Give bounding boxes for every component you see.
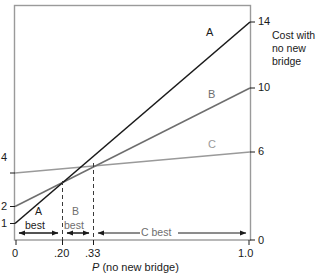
region-label-b-line2: best	[64, 219, 84, 231]
y-label-right-6: 6	[258, 145, 264, 157]
y-label-left-1: 1	[1, 217, 7, 229]
y-label-right-0: 0	[258, 234, 264, 246]
right-annotation-line1: Cost with	[272, 29, 315, 42]
x-label-020: .20	[54, 247, 69, 259]
region-label-a-line2: best	[25, 219, 45, 231]
y-label-right-14: 14	[258, 15, 270, 27]
x-label-10: 1.0	[238, 247, 253, 259]
y-label-left-4: 4	[1, 151, 7, 163]
region-label-c: C best	[141, 226, 171, 238]
series-label-c: C	[208, 138, 216, 150]
series-label-b: B	[208, 88, 215, 100]
y-label-right-10: 10	[258, 81, 270, 93]
right-annotation: Cost with no new bridge	[272, 29, 315, 68]
series-line-a	[15, 22, 250, 224]
region-label-b-line1: B	[72, 205, 79, 217]
x-axis-title-rest: (no new bridge)	[99, 261, 179, 273]
y-label-left-2: 2	[1, 200, 7, 212]
right-annotation-line2: no new	[272, 42, 315, 55]
right-annotation-line3: bridge	[272, 55, 315, 68]
region-label-a-line1: A	[35, 205, 42, 217]
chart-figure: A B C 4 2 1 14 10 6 0 0 .20 .33 1.0 A be…	[0, 0, 323, 277]
series-label-a: A	[206, 26, 213, 38]
x-label-033: .33	[85, 247, 100, 259]
x-label-0: 0	[12, 247, 18, 259]
series-line-c	[15, 152, 250, 173]
x-axis-title: P (no new bridge)	[92, 261, 179, 273]
